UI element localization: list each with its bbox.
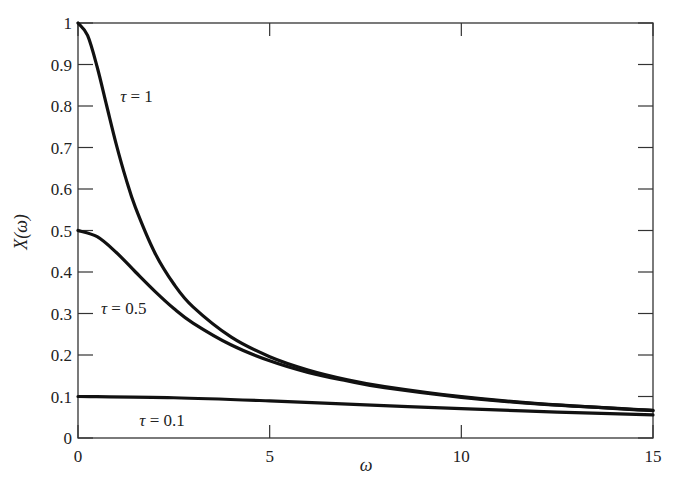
y-axis-label: X(ω) bbox=[11, 214, 32, 251]
y-tick-label: 0.9 bbox=[51, 56, 72, 75]
plot-border bbox=[78, 23, 653, 438]
curve-annotation: τ = 1 bbox=[120, 87, 153, 106]
x-axis-label: ω bbox=[360, 455, 373, 475]
plot-frame bbox=[78, 23, 653, 438]
curve-annotation: τ = 0.1 bbox=[139, 411, 184, 430]
x-tick-label: 10 bbox=[453, 447, 470, 466]
y-tick-label: 0.7 bbox=[51, 139, 73, 158]
curve-annotation: τ = 0.5 bbox=[101, 299, 146, 318]
y-tick-label: 0.5 bbox=[51, 222, 72, 241]
y-tick-label: 0.1 bbox=[51, 388, 72, 407]
curves bbox=[78, 23, 653, 415]
curve-series-1 bbox=[78, 231, 653, 411]
x-tick-label: 0 bbox=[74, 447, 83, 466]
curve-series-0 bbox=[78, 23, 653, 410]
y-tick-label: 0.8 bbox=[51, 97, 72, 116]
chart: 051015 00.10.20.30.40.50.60.70.80.91 τ =… bbox=[0, 0, 681, 488]
y-tick-label: 0 bbox=[64, 429, 73, 448]
y-tick-label: 0.4 bbox=[51, 263, 73, 282]
y-tick-label: 0.2 bbox=[51, 346, 72, 365]
x-tick-label: 5 bbox=[265, 447, 274, 466]
y-tick-label: 0.6 bbox=[51, 180, 72, 199]
x-axis-ticks: 051015 bbox=[74, 23, 662, 466]
y-tick-label: 0.3 bbox=[51, 305, 72, 324]
x-tick-label: 15 bbox=[645, 447, 662, 466]
y-tick-label: 1 bbox=[64, 14, 73, 33]
